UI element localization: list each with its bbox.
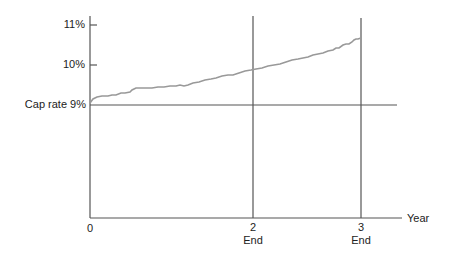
x-label-2-end: End xyxy=(238,234,268,246)
y-label-cap-rate: Cap rate 9% xyxy=(0,98,86,110)
x-label-3-end: End xyxy=(346,234,376,246)
y-label-10: 10% xyxy=(30,58,85,70)
x-axis-title: Year xyxy=(407,212,429,224)
cap-rate-curve xyxy=(90,38,361,103)
chart-canvas xyxy=(0,0,450,259)
x-label-3: 3 xyxy=(346,221,376,233)
y-label-11: 11% xyxy=(30,18,85,30)
x-label-2: 2 xyxy=(238,221,268,233)
x-label-0: 0 xyxy=(84,222,96,234)
